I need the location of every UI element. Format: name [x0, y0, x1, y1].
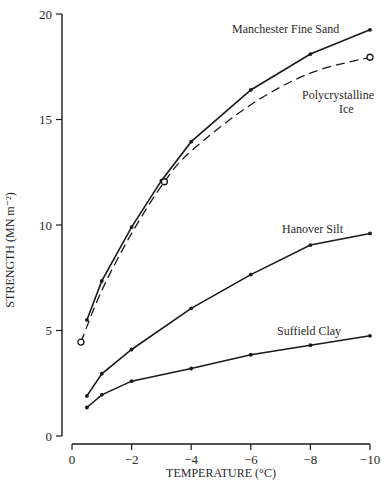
dot-marker	[368, 334, 372, 338]
y-axis: 05101520	[39, 7, 62, 444]
open-circle-marker	[78, 339, 84, 345]
series-line	[87, 30, 370, 320]
series-layer	[78, 28, 373, 409]
open-circle-marker	[367, 54, 373, 60]
dot-marker	[100, 279, 104, 283]
label-hanover-silt: Hanover Silt	[282, 222, 344, 236]
dot-marker	[249, 353, 253, 357]
x-tick-label: −4	[184, 452, 198, 467]
x-tick-label: −10	[360, 452, 380, 467]
y-tick-label: 20	[39, 7, 52, 22]
y-tick-label: 15	[39, 112, 52, 127]
strength-temperature-chart: 05101520 0−2−4−6−8−10 Manchester Fine Sa…	[0, 0, 392, 488]
dot-marker	[100, 372, 104, 376]
label-manchester-fine-sand: Manchester Fine Sand	[232, 22, 339, 36]
series-line	[87, 336, 370, 408]
dot-marker	[309, 343, 313, 347]
dot-marker	[189, 306, 193, 310]
dot-marker	[85, 406, 89, 410]
x-tick-label: 0	[69, 452, 76, 467]
x-tick-label: −6	[244, 452, 258, 467]
label-suffield-clay: Suffield Clay	[277, 324, 341, 338]
dot-marker	[85, 318, 89, 322]
dot-marker	[249, 273, 253, 277]
dot-marker	[130, 225, 134, 229]
series-line	[87, 233, 370, 395]
dot-marker	[85, 394, 89, 398]
dot-marker	[309, 52, 313, 56]
series-suffield-clay	[85, 334, 372, 410]
x-axis: 0−2−4−6−8−10	[69, 444, 380, 467]
dot-marker	[100, 393, 104, 397]
x-axis-title: TEMPERATURE (°C)	[166, 466, 276, 480]
dot-marker	[249, 88, 253, 92]
dot-marker	[309, 243, 313, 247]
y-tick-label: 0	[46, 429, 53, 444]
open-circle-marker	[161, 179, 167, 185]
x-tick-label: −2	[125, 452, 139, 467]
dot-marker	[189, 140, 193, 144]
dot-marker	[368, 232, 372, 236]
series-manchester-fine-sand	[85, 28, 372, 322]
x-tick-label: −8	[303, 452, 317, 467]
dot-marker	[130, 348, 134, 352]
y-tick-label: 5	[46, 323, 53, 338]
dot-marker	[130, 379, 134, 383]
label-polycrystalline: Polycrystalline	[302, 88, 374, 102]
dot-marker	[189, 367, 193, 371]
y-tick-label: 10	[39, 218, 52, 233]
dot-marker	[368, 28, 372, 32]
series-hanover-silt	[85, 232, 372, 398]
y-axis-title: STRENGTH (MN m⁻²)	[3, 192, 17, 307]
label-ice: Ice	[339, 102, 354, 116]
